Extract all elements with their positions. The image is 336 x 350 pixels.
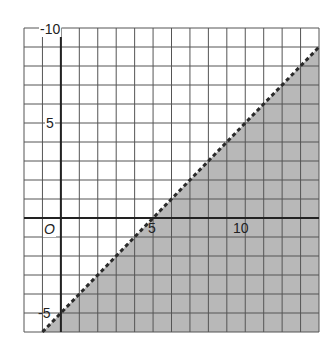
y-tick-label-neg5: -5	[38, 305, 51, 321]
x-tick-label-5: 5	[148, 220, 156, 236]
y-tick-label-5: 5	[46, 115, 54, 131]
x-tick-label-10: 10	[233, 220, 249, 236]
origin-label: O	[44, 221, 55, 237]
y-tick-label-top: -10	[40, 21, 60, 37]
inequality-graph: -10 5 -5 5 10 O	[0, 0, 336, 350]
